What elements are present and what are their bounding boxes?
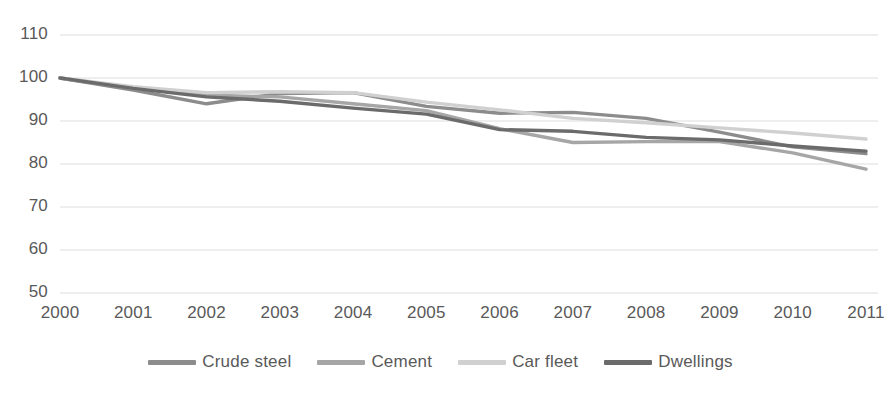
x-axis-tick-2011: 2011 xyxy=(831,303,889,323)
x-axis-tick-2004: 2004 xyxy=(318,303,388,323)
y-axis-tick-100: 100 xyxy=(0,67,48,87)
x-axis-tick-2010: 2010 xyxy=(758,303,828,323)
legend-swatch-icon xyxy=(604,360,652,365)
x-axis-tick-2006: 2006 xyxy=(465,303,535,323)
gridlines xyxy=(60,35,878,293)
x-axis-tick-2009: 2009 xyxy=(684,303,754,323)
x-axis-tick-2001: 2001 xyxy=(98,303,168,323)
legend-swatch-icon xyxy=(317,360,365,365)
x-axis-tick-2005: 2005 xyxy=(391,303,461,323)
legend-item-cement[interactable]: Cement xyxy=(317,352,432,372)
legend-item-dwellings[interactable]: Dwellings xyxy=(604,352,733,372)
legend-item-car-fleet[interactable]: Car fleet xyxy=(458,352,578,372)
x-axis-tick-2008: 2008 xyxy=(611,303,681,323)
x-axis-tick-2000: 2000 xyxy=(25,303,95,323)
legend-label: Car fleet xyxy=(512,352,578,372)
legend-label: Dwellings xyxy=(658,352,733,372)
x-axis-tick-2003: 2003 xyxy=(245,303,315,323)
legend-swatch-icon xyxy=(458,360,506,365)
x-axis-tick-2002: 2002 xyxy=(172,303,242,323)
legend-label: Cement xyxy=(371,352,432,372)
legend-label: Crude steel xyxy=(202,352,291,372)
series-lines xyxy=(60,78,866,169)
y-axis-tick-90: 90 xyxy=(0,110,48,130)
legend-item-crude-steel[interactable]: Crude steel xyxy=(148,352,291,372)
y-axis-tick-80: 80 xyxy=(0,153,48,173)
y-axis-tick-60: 60 xyxy=(0,239,48,259)
y-axis-tick-50: 50 xyxy=(0,282,48,302)
y-axis-tick-110: 110 xyxy=(0,24,48,44)
y-axis-tick-70: 70 xyxy=(0,196,48,216)
x-axis-tick-2007: 2007 xyxy=(538,303,608,323)
chart-legend: Crude steelCementCar fleetDwellings xyxy=(0,352,881,372)
legend-swatch-icon xyxy=(148,360,196,365)
